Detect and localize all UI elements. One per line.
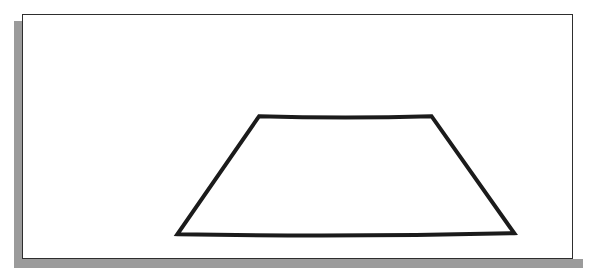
trapezoid-shape [177, 116, 514, 235]
figure-panel [22, 14, 573, 259]
figure-drawing-area [23, 15, 572, 258]
panel-shadow-bottom [14, 259, 583, 268]
image-canvas [0, 0, 606, 275]
